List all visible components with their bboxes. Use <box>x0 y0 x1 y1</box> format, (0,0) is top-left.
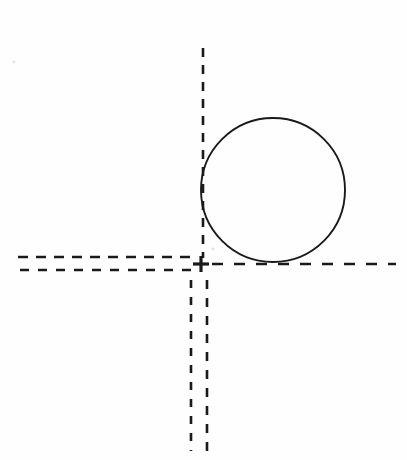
paper-speck-near-origin <box>212 248 215 251</box>
tangent-circle <box>201 118 345 262</box>
paper-specks-group <box>13 61 215 251</box>
line-drawing-svg <box>0 0 407 460</box>
dashed-lines-group <box>18 48 396 451</box>
circle-group <box>201 118 345 262</box>
figure-canvas <box>0 0 407 460</box>
origin-crosshair-marker <box>193 256 209 272</box>
paper-speck-upper-left <box>13 61 16 64</box>
